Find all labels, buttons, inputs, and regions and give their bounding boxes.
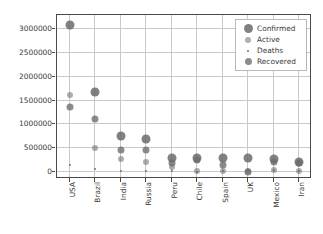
chart-legend: ConfirmedActiveDeathsRecovered [235, 19, 307, 71]
y-axis-tick-mark [52, 52, 55, 53]
x-axis-tick-label-mexico: Mexico [271, 182, 280, 208]
y-axis-tick-label: 3000000 [0, 24, 52, 33]
legend-label: Active [257, 35, 280, 44]
x-axis-tick-label-iran: Iran [297, 182, 306, 196]
data-point-confirmed-uk [244, 154, 253, 163]
x-axis-tick-label-usa: USA [67, 182, 76, 197]
data-point-active-usa [67, 92, 73, 98]
data-point-confirmed-india [116, 132, 125, 141]
legend-item-confirmed[interactable]: Confirmed [239, 23, 302, 34]
legend-marker-confirmed-icon [239, 24, 257, 33]
data-point-deaths-brazil [94, 168, 96, 170]
legend-item-recovered[interactable]: Recovered [239, 56, 302, 67]
legend-marker-deaths-icon [239, 50, 257, 52]
x-axis-tick-label-brazil: Brazil [93, 182, 102, 203]
data-point-active-russia [143, 159, 149, 165]
data-point-deaths-uk [247, 169, 249, 171]
data-point-recovered-iran [296, 160, 303, 167]
y-axis-tick-label: 500000 [0, 143, 52, 152]
data-point-recovered-india [117, 147, 124, 154]
gridline-vertical [196, 15, 197, 177]
x-axis-tick-label-india: India [118, 182, 127, 200]
y-axis-tick-mark [52, 100, 55, 101]
data-point-deaths-india [120, 170, 122, 172]
y-axis-tick-label: 0 [0, 166, 52, 175]
covid-bubble-chart-figure: 0500000100000015000002000000250000030000… [0, 0, 323, 234]
x-axis-tick-label-russia: Russia [144, 182, 153, 206]
data-point-recovered-usa [66, 104, 73, 111]
y-axis-tick-labels: 0500000100000015000002000000250000030000… [0, 0, 56, 234]
y-axis-tick-label: 2500000 [0, 48, 52, 57]
data-point-confirmed-russia [142, 135, 151, 144]
data-point-deaths-iran [298, 170, 300, 172]
data-point-active-india [118, 156, 124, 162]
y-axis-tick-label: 1500000 [0, 95, 52, 104]
data-point-recovered-mexico [270, 159, 277, 166]
data-point-deaths-peru [171, 170, 173, 172]
y-axis-tick-mark [52, 123, 55, 124]
y-axis-tick-mark [52, 28, 55, 29]
y-axis-tick-mark [52, 76, 55, 77]
data-point-confirmed-brazil [91, 88, 100, 97]
y-axis-tick-mark [52, 147, 55, 148]
data-point-confirmed-usa [65, 20, 74, 29]
data-point-recovered-russia [143, 146, 150, 153]
legend-label: Recovered [257, 57, 296, 66]
x-axis-tick-label-chile: Chile [195, 182, 204, 201]
y-axis-tick-label: 1000000 [0, 119, 52, 128]
legend-marker-active-icon [239, 37, 257, 43]
data-point-deaths-spain [222, 170, 224, 172]
legend-item-deaths[interactable]: Deaths [239, 45, 302, 56]
data-point-deaths-russia [145, 170, 147, 172]
data-point-deaths-mexico [273, 169, 275, 171]
data-point-deaths-usa [69, 164, 71, 166]
x-axis-tick-label-spain: Spain [220, 182, 229, 203]
x-axis-tick-label-uk: UK [246, 182, 255, 192]
legend-item-active[interactable]: Active [239, 34, 302, 45]
y-axis-tick-mark [52, 171, 55, 172]
data-point-recovered-brazil [92, 115, 99, 122]
data-point-active-brazil [92, 145, 98, 151]
legend-marker-recovered-icon [239, 58, 257, 65]
y-axis-tick-label: 2000000 [0, 71, 52, 80]
legend-label: Confirmed [257, 24, 295, 33]
data-point-recovered-chile [194, 156, 201, 163]
x-axis-tick-label-peru: Peru [169, 182, 178, 198]
legend-label: Deaths [257, 46, 283, 55]
data-point-deaths-chile [196, 171, 198, 173]
